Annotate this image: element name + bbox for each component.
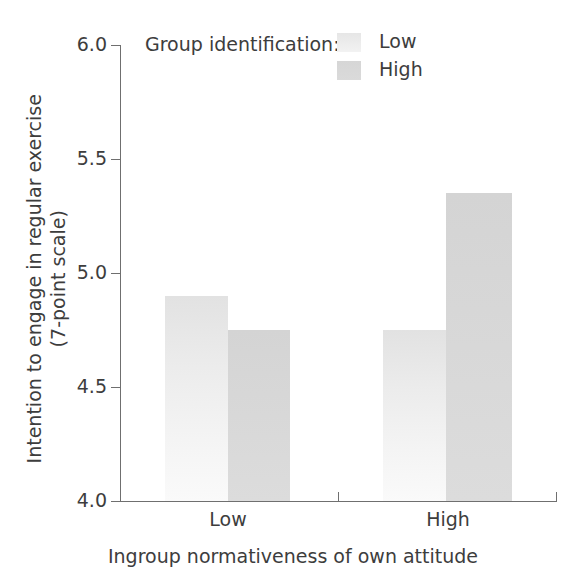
y-axis-title-line1: Intention to engage in regular exercise [23, 69, 47, 489]
y-tick-mark-5.5 [111, 159, 120, 160]
legend-label-high: High [379, 58, 423, 80]
legend-title: Group identification: [145, 33, 340, 55]
y-tick-label: 4.0 [61, 491, 107, 510]
y-axis-title: Intention to engage in regular exercise … [23, 69, 71, 489]
legend-swatch-high-icon [337, 61, 361, 80]
bar-high-normativeness-high-identification [446, 193, 512, 501]
bar-low-normativeness-high-identification [228, 330, 290, 501]
legend-swatch-low-icon [337, 33, 361, 52]
x-tick-label-low: Low [168, 508, 288, 530]
bar-low-normativeness-low-identification [165, 296, 228, 501]
bar-chart-figure: 6.0 5.5 5.0 4.5 4.0 Low High Ingroup nor… [0, 0, 586, 580]
bar-high-normativeness-low-identification [383, 330, 446, 501]
y-tick-mark-4.0 [111, 501, 120, 502]
x-axis-title: Ingroup normativeness of own attitude [0, 545, 586, 567]
y-tick-mark-4.5 [111, 387, 120, 388]
plot-area [120, 45, 557, 501]
legend-label-low: Low [379, 30, 416, 52]
y-tick-label: 6.0 [61, 35, 107, 54]
y-tick-mark-5.0 [111, 273, 120, 274]
y-axis-title-line2: (7-point scale) [47, 69, 71, 489]
y-tick-mark-6.0 [111, 45, 120, 46]
legend: Group identification: Low High [145, 30, 475, 86]
x-tick-label-high: High [388, 508, 508, 530]
